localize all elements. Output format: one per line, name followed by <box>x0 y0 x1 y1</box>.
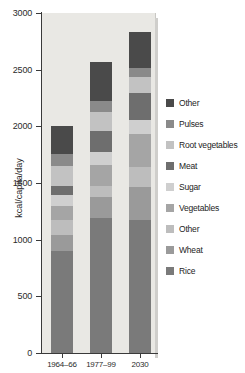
legend-swatch-icon <box>166 120 174 128</box>
x-tick-label: 1964–66 <box>47 360 77 369</box>
bar-1977–99 <box>90 13 112 353</box>
y-axis-line <box>41 12 42 354</box>
legend-item-vegetables: Vegetables <box>166 197 245 218</box>
legend-swatch-icon <box>166 183 174 191</box>
bar-segment-other <box>51 126 73 153</box>
legend-item-label: Sugar <box>179 182 201 192</box>
legend-item-label: Rice <box>179 266 195 276</box>
bar-segment-pulses <box>129 68 151 77</box>
legend-swatch-icon <box>166 204 174 212</box>
legend-item-label: Other <box>179 98 199 108</box>
bar-segment-sugar <box>129 120 151 134</box>
y-tick-mark <box>36 240 41 241</box>
x-tick-mark <box>62 353 63 358</box>
bar-segment-vegetables <box>51 206 73 220</box>
legend-swatch-icon <box>166 267 174 275</box>
bar-segment-wheat <box>51 235 73 251</box>
bar-segment-wheat <box>90 197 112 219</box>
y-tick-label: 3000 <box>13 8 32 18</box>
y-tick-label: 0 <box>27 348 32 358</box>
legend-item-label: Vegetables <box>179 203 219 213</box>
legend-item-label: Root vegetables <box>179 140 237 150</box>
bar-segment-vegetables <box>129 134 151 167</box>
legend-item-sugar: Sugar <box>166 176 245 197</box>
bar-2030 <box>129 13 151 353</box>
legend-item-rice: Rice <box>166 260 245 281</box>
legend-swatch-icon <box>166 141 174 149</box>
bar-segment-root-vegetables <box>90 112 112 132</box>
legend: OtherPulsesRoot vegetablesMeatSugarVeget… <box>166 92 245 281</box>
legend-item-label: Wheat <box>179 245 203 255</box>
x-tick-mark <box>140 353 141 358</box>
y-axis-title: kcal/capita/day <box>14 128 24 248</box>
x-tick-label: 1977–99 <box>86 360 116 369</box>
legend-item-other: Other <box>166 92 245 113</box>
bar-segment-pulses <box>90 101 112 112</box>
y-tick-label: 2500 <box>13 65 32 75</box>
legend-item-label: Meat <box>179 161 197 171</box>
x-tick-label: 2030 <box>132 360 149 369</box>
legend-swatch-icon <box>166 162 174 170</box>
bar-segment-other <box>129 32 151 68</box>
bar-segment-sugar <box>51 195 73 206</box>
bar-segment-rice <box>51 251 73 353</box>
bar-segment-root-vegetables <box>129 77 151 93</box>
bar-segment-meat <box>90 131 112 152</box>
bar-segment-root-vegetables <box>51 166 73 186</box>
bar-segment-meat <box>129 93 151 120</box>
legend-item-pulses: Pulses <box>166 113 245 134</box>
bar-segment-other <box>51 220 73 235</box>
bar-segment-other <box>90 62 112 101</box>
legend-swatch-icon <box>166 225 174 233</box>
y-tick-mark <box>36 353 41 354</box>
y-tick-mark <box>36 126 41 127</box>
legend-item-label: Other <box>179 224 199 234</box>
bar-segment-sugar <box>90 152 112 164</box>
legend-swatch-icon <box>166 246 174 254</box>
bar-segment-pulses <box>51 154 73 166</box>
y-tick-mark <box>36 13 41 14</box>
legend-item-other: Other <box>166 218 245 239</box>
bar-segment-wheat <box>129 187 151 220</box>
legend-item-label: Pulses <box>179 119 203 129</box>
chart-figure: 050010001500200025003000 1964–661977–992… <box>0 0 245 373</box>
bar-segment-rice <box>129 220 151 353</box>
bar-segment-other <box>129 167 151 187</box>
bar-1964–66 <box>51 13 73 353</box>
bar-segment-other <box>90 186 112 196</box>
legend-item-root-vegetables: Root vegetables <box>166 134 245 155</box>
legend-swatch-icon <box>166 99 174 107</box>
plot-area-shadow <box>155 18 158 358</box>
y-tick-mark <box>36 70 41 71</box>
legend-item-wheat: Wheat <box>166 239 245 260</box>
x-tick-mark <box>101 353 102 358</box>
legend-item-meat: Meat <box>166 155 245 176</box>
bar-segment-meat <box>51 186 73 195</box>
y-tick-mark <box>36 183 41 184</box>
y-tick-label: 500 <box>18 291 32 301</box>
bar-segment-rice <box>90 218 112 353</box>
y-tick-mark <box>36 296 41 297</box>
bar-segment-vegetables <box>90 165 112 187</box>
